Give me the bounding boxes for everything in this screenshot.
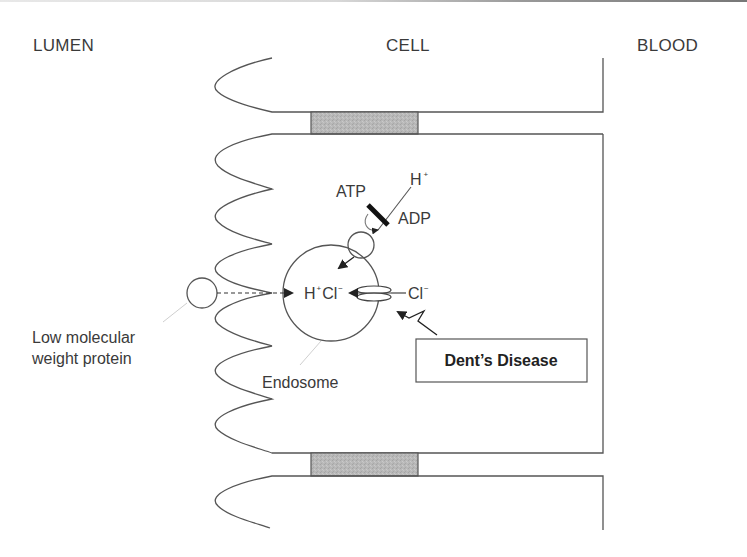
proton-pump-icon bbox=[348, 232, 374, 258]
cell-label: CELL bbox=[386, 36, 430, 55]
h-ion-label: H+ bbox=[410, 170, 429, 188]
bottom-cell bbox=[215, 476, 603, 530]
endosome-leader-line bbox=[300, 341, 321, 365]
adp-label: ADP bbox=[398, 210, 431, 227]
proton-influx-arrow bbox=[339, 257, 354, 268]
dent-disease-diagram: LUMEN CELL BLOOD ATP ADP H+ H+Cl− bbox=[0, 0, 747, 557]
cl-ion-label: Cl− bbox=[408, 284, 429, 302]
atpase-bar-icon bbox=[368, 205, 388, 225]
protein-label-line2: weight protein bbox=[31, 350, 132, 367]
defect-lightning-arrow bbox=[398, 311, 437, 335]
protein-label-line1: Low molecular bbox=[32, 329, 136, 346]
endosome-label: Endosome bbox=[262, 374, 339, 391]
endosome-hcl-label: H+Cl− bbox=[304, 284, 343, 302]
protein-circle-icon bbox=[187, 278, 217, 308]
clc5-channel-icon bbox=[357, 286, 391, 301]
lumen-label: LUMEN bbox=[33, 36, 94, 55]
top-cell bbox=[215, 58, 603, 112]
disease-label: Dent’s Disease bbox=[444, 352, 557, 369]
atp-label: ATP bbox=[336, 183, 366, 200]
tight-junction-top bbox=[311, 112, 418, 134]
blood-label: BLOOD bbox=[637, 36, 698, 55]
protein-leader-line bbox=[163, 303, 187, 322]
tight-junction-bottom bbox=[311, 453, 418, 476]
